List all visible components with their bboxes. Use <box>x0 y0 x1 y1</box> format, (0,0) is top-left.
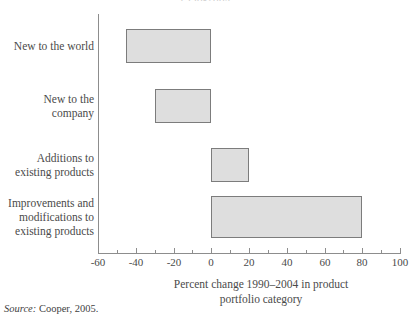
x-axis-minor-tick <box>192 250 193 253</box>
category-label: Improvements and modifications to existi… <box>0 196 94 238</box>
category-label: New to the world <box>0 39 94 53</box>
figure-container: 1990-2004 -60-40-20020406080100New to th… <box>0 0 410 321</box>
y-axis-line <box>98 14 99 253</box>
x-axis-tick-label: 100 <box>380 256 410 268</box>
x-axis-tick-label: -40 <box>116 256 156 268</box>
category-label: New to the company <box>0 92 94 120</box>
x-axis-tick <box>325 248 326 254</box>
x-axis-tick <box>362 248 363 254</box>
x-axis-tick <box>98 248 99 254</box>
x-axis-minor-tick <box>381 250 382 253</box>
x-axis-tick <box>211 248 212 254</box>
x-axis-tick-label: 0 <box>191 256 231 268</box>
x-axis-tick-label: 60 <box>305 256 345 268</box>
x-axis-minor-tick <box>343 250 344 253</box>
x-axis-title: Percent change 1990–2004 in product port… <box>130 277 392 307</box>
x-axis-minor-tick <box>117 250 118 253</box>
x-axis-tick-label: 40 <box>267 256 307 268</box>
bar-chart-plot-area: -60-40-20020406080100New to the worldNew… <box>0 0 410 321</box>
x-axis-minor-tick <box>306 250 307 253</box>
x-axis-minor-tick <box>230 250 231 253</box>
x-axis-tick-label: 80 <box>342 256 382 268</box>
x-axis-tick-label: -20 <box>154 256 194 268</box>
x-axis-tick <box>136 248 137 254</box>
source-note: Source: Cooper, 2005. <box>4 303 98 314</box>
bar <box>155 89 211 123</box>
x-axis-tick <box>174 248 175 254</box>
x-axis-minor-tick <box>268 250 269 253</box>
x-axis-tick <box>400 248 401 254</box>
category-label: Additions to existing products <box>0 151 94 179</box>
x-axis-tick <box>287 248 288 254</box>
x-axis-tick-label: 20 <box>229 256 269 268</box>
bar <box>126 29 211 63</box>
source-note-label: Source: <box>4 303 36 314</box>
x-axis-tick-label: -60 <box>78 256 118 268</box>
x-axis-minor-tick <box>155 250 156 253</box>
x-axis-tick <box>249 248 250 254</box>
bar <box>211 148 249 182</box>
bar <box>211 196 362 238</box>
source-note-text: Cooper, 2005. <box>36 303 98 314</box>
